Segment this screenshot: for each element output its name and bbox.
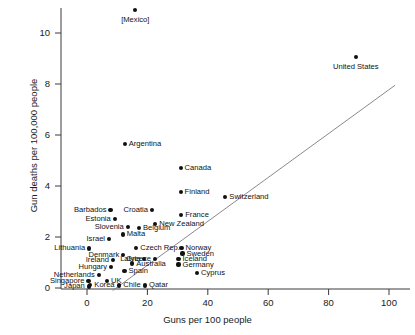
x-tick-label: 80 [314, 297, 344, 308]
data-point-label: France [185, 211, 209, 219]
data-point-label: Germany [183, 261, 214, 269]
data-point-label: Spain [128, 267, 147, 275]
data-point[interactable] [122, 269, 126, 273]
data-point-label: Belgium [143, 224, 170, 232]
x-tick-label: 100 [374, 297, 404, 308]
data-point-label: Israel [86, 235, 105, 243]
data-point-label: [Mexico] [75, 16, 195, 24]
y-tick-label: 0 [24, 282, 50, 293]
data-point-label: Qatar [149, 281, 168, 289]
y-tick-label: 4 [24, 180, 50, 191]
data-point[interactable] [123, 142, 127, 146]
y-tick-label: 6 [24, 129, 50, 140]
y-tick-label: 10 [24, 27, 50, 38]
data-point-label: Cyprus [201, 269, 225, 277]
data-point[interactable] [111, 258, 115, 262]
data-point-label: Switzerland [229, 193, 268, 201]
data-point[interactable] [130, 261, 134, 265]
axis-lines [61, 8, 410, 289]
data-point-label: Barbados [74, 206, 107, 214]
data-point-label: Croatia [123, 206, 147, 214]
data-point[interactable] [195, 271, 199, 275]
data-point-label: Czech Rep. [140, 244, 180, 252]
data-point-label: Malta [127, 230, 146, 238]
data-point[interactable] [176, 257, 180, 261]
y-tick-label: 8 [24, 78, 50, 89]
data-point[interactable] [117, 283, 121, 287]
data-point-label: Korea [94, 281, 114, 289]
data-point[interactable] [150, 208, 154, 212]
y-tick-label: 2 [24, 231, 50, 242]
x-tick-label: 0 [72, 297, 102, 308]
data-point-label: Canada [185, 164, 212, 172]
data-point[interactable] [176, 262, 180, 266]
data-point[interactable] [121, 232, 125, 236]
x-axis-title: Guns per 100 people [0, 314, 415, 325]
x-tick-label: 20 [132, 297, 162, 308]
data-point[interactable] [108, 208, 112, 212]
x-tick-label: 60 [253, 297, 283, 308]
data-point-label: Lithuania [54, 244, 85, 252]
x-tick-label: 40 [193, 297, 223, 308]
data-point-label: Finland [185, 188, 210, 196]
data-point-label: Chile [123, 281, 140, 289]
data-point-label: Slovenia [95, 223, 124, 231]
data-point[interactable] [179, 166, 183, 170]
data-point-label: United States [296, 63, 415, 71]
data-point-label: Japan [64, 282, 85, 290]
data-point[interactable] [179, 246, 183, 250]
x-axis-ticks [87, 289, 389, 295]
data-point-label: Argentina [129, 140, 162, 148]
data-point[interactable] [143, 283, 147, 287]
